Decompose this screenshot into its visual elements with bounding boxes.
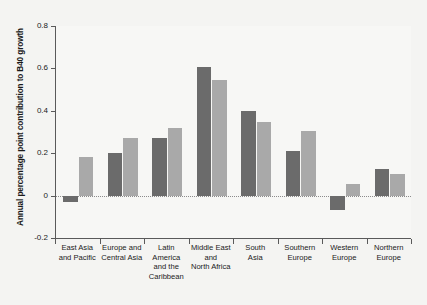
- bar: [212, 80, 227, 196]
- x-axis-label: SouthAsia: [233, 243, 278, 262]
- y-tick-label: 0.2: [37, 148, 48, 157]
- x-axis-label-line: Europe and: [100, 243, 145, 253]
- y-tick-label: 0.4: [37, 106, 48, 115]
- bar: [241, 111, 256, 196]
- y-tick-label: 0.6: [37, 63, 48, 72]
- x-axis-label: Middle EastandNorth Africa: [189, 243, 234, 272]
- x-axis-label-line: Europe: [367, 253, 412, 263]
- y-tick-label: 0: [44, 191, 48, 200]
- x-axis-labels: East Asiaand PacificEurope andCentral As…: [55, 243, 411, 301]
- y-tick: 0.6: [51, 68, 56, 69]
- x-tick: [411, 239, 412, 244]
- plot-area: 0.80.60.40.20-0.2: [55, 26, 411, 238]
- bar: [63, 196, 78, 202]
- bar: [257, 122, 272, 195]
- x-axis-label-line: Europe: [278, 253, 323, 263]
- y-tick: 0.4: [51, 111, 56, 112]
- x-axis-label-line: Caribbean: [144, 272, 189, 282]
- x-axis-label-line: Western: [322, 243, 367, 253]
- bar: [79, 157, 94, 195]
- bar: [301, 131, 316, 196]
- x-axis-label: LatinAmericaand theCaribbean: [144, 243, 189, 281]
- x-axis-label-line: East Asia: [55, 243, 100, 253]
- y-tick: 0.2: [51, 153, 56, 154]
- x-axis-label-line: South: [233, 243, 278, 253]
- bar: [108, 153, 123, 195]
- x-axis-label-line: and: [189, 253, 234, 263]
- x-axis-label: NorthernEurope: [367, 243, 412, 262]
- y-axis-title: Annual percentage point contribution to …: [14, 16, 28, 238]
- x-axis-label-line: Asia: [233, 253, 278, 263]
- bar: [197, 67, 212, 195]
- bar: [346, 184, 361, 196]
- bar: [390, 174, 405, 195]
- bar: [375, 169, 390, 196]
- chart-figure: Annual percentage point contribution to …: [0, 0, 427, 305]
- x-axis-label-line: Middle East: [189, 243, 234, 253]
- x-axis-label: East Asiaand Pacific: [55, 243, 100, 262]
- x-axis-line: [55, 238, 411, 239]
- zero-reference-line: [56, 196, 411, 197]
- bar: [152, 138, 167, 195]
- x-axis-label: Europe andCentral Asia: [100, 243, 145, 262]
- x-axis-label-line: Southern: [278, 243, 323, 253]
- x-axis-label-line: and Pacific: [55, 253, 100, 263]
- y-tick-label: 0.8: [37, 21, 48, 30]
- x-axis-label: WesternEurope: [322, 243, 367, 262]
- x-axis-label-line: Latin: [144, 243, 189, 253]
- y-tick: 0.8: [51, 26, 56, 27]
- bar: [123, 138, 138, 195]
- x-axis-label-line: and the: [144, 262, 189, 272]
- y-tick-label: -0.2: [34, 233, 48, 242]
- bar: [286, 151, 301, 196]
- x-axis-label-line: America: [144, 253, 189, 263]
- x-axis-label-line: Northern: [367, 243, 412, 253]
- x-axis-label-line: Central Asia: [100, 253, 145, 263]
- bar: [330, 196, 345, 211]
- x-axis-label-line: North Africa: [189, 262, 234, 272]
- bar: [168, 128, 183, 196]
- x-axis-label-line: Europe: [322, 253, 367, 263]
- x-axis-label: SouthernEurope: [278, 243, 323, 262]
